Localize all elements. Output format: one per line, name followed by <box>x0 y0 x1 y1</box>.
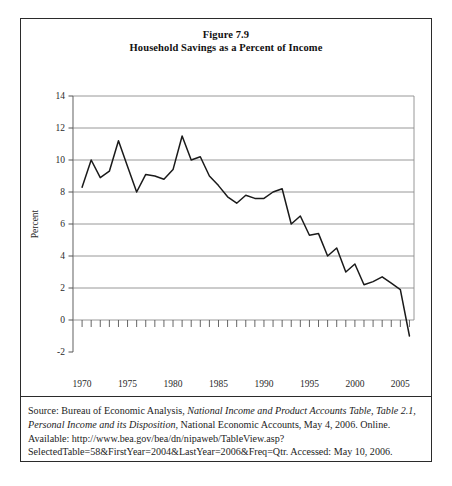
figure-frame: Figure 7.9 Household Savings as a Percen… <box>20 18 432 462</box>
x-tick-label: 1985 <box>209 379 228 389</box>
y-tick-label: 0 <box>60 315 65 325</box>
x-tick-label: 1975 <box>118 379 137 389</box>
line-chart: -202468101214 19701975198019851990199520… <box>21 59 433 396</box>
y-tick-label: 12 <box>56 123 66 133</box>
x-tick-label: 2000 <box>345 379 364 389</box>
figure-title-block: Figure 7.9 Household Savings as a Percen… <box>21 28 431 55</box>
x-tick-label: 1970 <box>73 379 92 389</box>
series-line <box>82 136 409 336</box>
caption-segment-lead: Source: Bureau of Economic Analysis, <box>28 405 187 416</box>
y-tick-label: 4 <box>60 251 65 261</box>
minor-ticks-group <box>82 320 409 327</box>
figure-number-label: Figure 7.9 <box>21 28 431 41</box>
y-tick-labels-group: -202468101214 <box>56 91 66 357</box>
x-tick-labels-group: 19701975198019851990199520002005 <box>73 379 411 389</box>
figure-source-caption: Source: Bureau of Economic Analysis, Nat… <box>28 404 424 459</box>
y-tick-label: 2 <box>60 283 65 293</box>
x-tick-label: 2005 <box>391 379 410 389</box>
y-tick-label: 8 <box>60 187 65 197</box>
caption-divider <box>21 396 431 397</box>
y-axis-title-group: Percent <box>30 209 40 238</box>
y-tick-marks-group <box>69 96 74 352</box>
y-tick-label: 10 <box>56 155 66 165</box>
x-tick-label: 1990 <box>254 379 273 389</box>
y-tick-label: 14 <box>56 91 66 101</box>
gridlines-group <box>73 96 414 320</box>
y-axis-title: Percent <box>30 209 40 238</box>
figure-title-label: Household Savings as a Percent of Income <box>21 41 431 54</box>
data-series-group <box>82 136 409 336</box>
x-tick-label: 1995 <box>300 379 319 389</box>
chart-area: -202468101214 19701975198019851990199520… <box>21 59 433 396</box>
y-tick-label: 6 <box>60 219 65 229</box>
x-tick-label: 1980 <box>164 379 183 389</box>
y-tick-label: -2 <box>57 347 65 357</box>
